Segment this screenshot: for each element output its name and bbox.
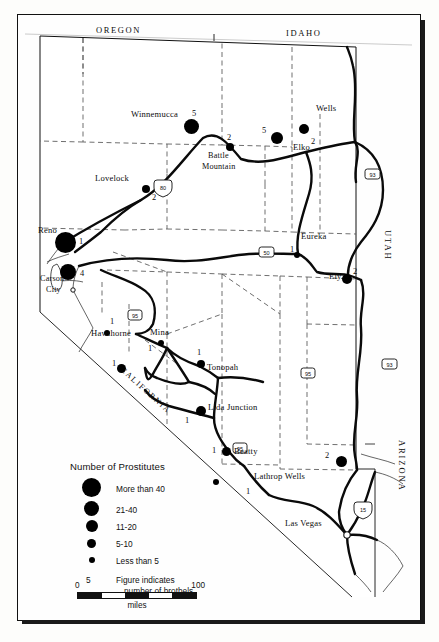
city-label-lovelock: Lovelock (95, 174, 129, 183)
state-label-idaho: IDAHO (286, 29, 321, 38)
dot-west-nye[interactable] (117, 364, 126, 373)
brothel-count-beatty: 1 (212, 447, 216, 455)
state-label-oregon: OREGON (96, 26, 141, 35)
scale-bar-segments (77, 592, 197, 599)
svg-text:93: 93 (386, 362, 392, 368)
dot-beatty[interactable] (222, 447, 231, 456)
las-vegas-city-symbol (344, 532, 350, 538)
state-label-utah: UTAH (384, 230, 393, 261)
map-legend: Number of Prostitutes More than 40 21-40… (66, 461, 256, 596)
legend-figure-note-line1: Figure indicates (116, 575, 175, 585)
city-label-eureka: Eureka (301, 232, 327, 241)
city-label-lathrop-wells: Lathrop Wells (254, 472, 305, 481)
scale-label-start: 0 (75, 581, 80, 590)
dot-winnemucca[interactable] (184, 119, 199, 134)
dot-lincoln-county[interactable] (336, 456, 347, 467)
brothel-count-lida-junction: 1 (185, 417, 189, 425)
frame-shadow-right (421, 20, 425, 624)
brothel-count-west-nye: 1 (112, 360, 116, 368)
shield-interstate-80-central: 50 (259, 247, 274, 257)
legend-label-21-40: 21-40 (116, 505, 137, 515)
shield-us-95-lida: 95 (301, 368, 315, 378)
dot-lovelock[interactable] (142, 185, 150, 193)
svg-text:80: 80 (160, 185, 166, 191)
svg-text:93: 93 (369, 172, 375, 178)
dot-elko[interactable] (271, 132, 283, 144)
legend-row-11-20: 11-20 (66, 519, 256, 537)
map-scale-bar: 0 100 miles (77, 592, 197, 599)
scale-segment-3 (126, 593, 150, 598)
legend-row-5-10: 5-10 (66, 537, 256, 554)
brothel-count-battle-mountain: 2 (227, 134, 231, 142)
city-label-tonopah: Tonopah (207, 363, 238, 372)
dot-wells[interactable] (299, 124, 309, 134)
brothel-count-hawthorne: 1 (110, 318, 114, 326)
legend-label-less-than-5: Less than 5 (116, 556, 159, 566)
city-label-hawthorne: Hawthorne (91, 329, 131, 338)
legend-figure-sample-number: 5 (86, 575, 91, 585)
svg-text:95: 95 (132, 313, 138, 319)
city-label-las-vegas: Las Vegas (285, 519, 322, 528)
legend-dot-21-40 (84, 501, 99, 516)
svg-text:50: 50 (263, 250, 269, 256)
brothel-count-winnemucca: 5 (192, 110, 196, 118)
city-label-elko: Elko (293, 143, 310, 152)
legend-label-more-than-40: More than 40 (116, 484, 165, 494)
brothel-count-ely: 2 (353, 268, 357, 276)
legend-dot-11-20 (86, 520, 98, 532)
state-label-arizona: ARIZONA (398, 440, 407, 492)
dot-eureka[interactable] (294, 252, 300, 258)
city-label-wells: Wells (316, 104, 336, 113)
figure-page: 80 50 93 93 95 (0, 0, 439, 642)
city-label-winnemucca: Winnemucca (131, 110, 178, 119)
city-label-reno: Reno (38, 226, 57, 235)
dot-reno[interactable] (55, 232, 76, 253)
legend-row-21-40: 21-40 (66, 500, 256, 519)
city-label-battle-mountain-line1: Battle (208, 152, 229, 160)
legend-dot-less-than-5 (89, 557, 95, 563)
brothel-count-mina: 1 (148, 345, 152, 353)
city-label-carson-city-line2: City (46, 286, 61, 294)
shield-us-95-hawthorne: 95 (128, 310, 142, 320)
scale-label-end: 100 (191, 581, 205, 590)
scale-units-label: miles (77, 601, 197, 610)
shield-us-93-east: 93 (382, 359, 397, 369)
legend-row-less-than-5: Less than 5 (66, 554, 256, 572)
dot-lida-junction[interactable] (196, 406, 206, 416)
dot-tonopah[interactable] (197, 360, 205, 368)
city-label-battle-mountain-line2: Mountain (202, 163, 235, 171)
scale-segment-1 (78, 593, 102, 598)
brothel-count-carson-city: 4 (80, 270, 84, 278)
city-label-beatty: Beatty (234, 447, 258, 456)
city-label-lida-junction: Lida Junction (208, 403, 258, 412)
city-label-mina: Mina (150, 328, 169, 337)
brothel-count-lincoln-county: 2 (325, 452, 329, 460)
brothel-count-lovelock: 2 (152, 194, 156, 202)
svg-text:15: 15 (360, 507, 366, 513)
shield-us-93-wells: 93 (365, 169, 380, 179)
carson-city-city-symbol (71, 288, 75, 292)
brothel-count-eureka: 1 (290, 246, 294, 254)
city-label-carson-city-line1: Carson (40, 275, 64, 283)
dot-ely[interactable] (342, 274, 352, 284)
scale-segment-5 (173, 593, 196, 598)
legend-dot-more-than-40 (82, 478, 101, 497)
legend-title: Number of Prostitutes (70, 461, 256, 472)
scale-segment-4 (149, 593, 173, 598)
scale-segment-2 (102, 593, 126, 598)
legend-row-more-than-40: More than 40 (66, 478, 256, 500)
brothel-count-wells: 2 (311, 138, 315, 146)
city-label-ely: Ely (329, 272, 342, 281)
brothel-count-tonopah: 1 (197, 349, 201, 357)
legend-label-5-10: 5-10 (116, 539, 133, 549)
legend-dot-5-10 (87, 539, 96, 548)
dot-battle-mountain[interactable] (226, 143, 234, 151)
brothel-count-elko: 5 (262, 127, 266, 135)
brothel-count-reno: 1 (79, 238, 83, 246)
dot-mina[interactable] (158, 340, 164, 346)
svg-text:95: 95 (305, 371, 311, 377)
legend-label-11-20: 11-20 (116, 522, 137, 532)
